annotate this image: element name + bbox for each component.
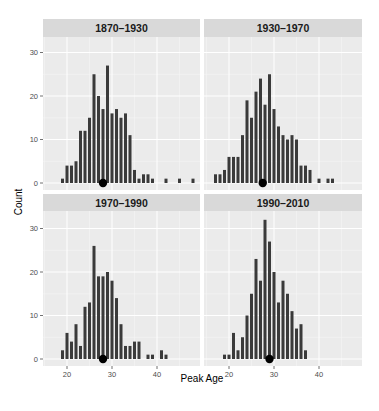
histogram-bar (304, 350, 307, 359)
histogram-bar (304, 166, 307, 183)
histogram-bar (129, 135, 132, 183)
histogram-bar (79, 346, 82, 359)
histogram-bar (97, 276, 100, 359)
histogram-bar (147, 174, 150, 183)
histogram-bar (295, 140, 298, 184)
histogram-bar (124, 346, 127, 359)
x-tick-label: 40 (153, 370, 161, 379)
histogram-bar (277, 126, 280, 183)
histogram-bar (151, 179, 154, 183)
y-tick-label: 10 (30, 135, 38, 144)
histogram-bar (282, 281, 285, 359)
histogram-bar (282, 135, 285, 183)
histogram-bar (192, 179, 195, 183)
histogram-bar (138, 342, 141, 359)
histogram-bar (300, 166, 303, 183)
histogram-bar (88, 302, 91, 359)
histogram-bar (228, 157, 231, 183)
median-point (99, 179, 107, 187)
median-point (265, 355, 273, 363)
histogram-bar (246, 100, 249, 183)
x-tick-label: 20 (63, 370, 71, 379)
histogram-bar (214, 174, 217, 183)
y-tick-label: 10 (30, 311, 38, 320)
x-tick-label: 40 (315, 370, 323, 379)
histogram-bar (133, 342, 136, 359)
histogram-bar (61, 179, 64, 183)
histogram-bar (84, 307, 87, 359)
histogram-bar (75, 324, 78, 359)
histogram-bar (106, 272, 109, 359)
histogram-bar (97, 96, 100, 183)
x-axis-title: Peak Age (181, 373, 224, 384)
facet-panel: 1990–2010 (204, 194, 362, 366)
median-point (99, 355, 107, 363)
histogram-bar (115, 109, 118, 183)
histogram-bar (318, 179, 321, 183)
y-axis-title: Count (13, 188, 24, 215)
histogram-bar (133, 170, 136, 183)
histogram-bar (88, 118, 91, 183)
histogram-bar (331, 179, 334, 183)
histogram-bar (151, 355, 154, 359)
histogram-bar (70, 166, 73, 183)
histogram-bar (178, 179, 181, 183)
histogram-bar (327, 179, 330, 183)
histogram-bar (286, 294, 289, 359)
facet-panel: 1870–1930 (43, 19, 200, 190)
y-tick-label: 20 (30, 92, 38, 101)
histogram-bar (102, 109, 105, 183)
histogram-bar (268, 74, 271, 183)
histogram-bar (255, 259, 258, 359)
histogram-bar (165, 179, 168, 183)
facet-panel: 1930–1970 (204, 19, 362, 190)
histogram-bar (300, 324, 303, 359)
y-tick-label: 30 (30, 224, 38, 233)
y-tick-label: 0 (34, 355, 38, 364)
histogram-bar (219, 174, 222, 183)
histogram-bar (232, 333, 235, 359)
histogram-bar (246, 316, 249, 360)
histogram-bar (129, 346, 132, 359)
histogram-bar (250, 118, 253, 183)
histogram-bar (142, 174, 145, 183)
histogram-bar (66, 333, 69, 359)
histogram-bar (264, 220, 267, 359)
histogram-bar (124, 113, 127, 183)
histogram-bar (291, 311, 294, 359)
histogram-bar (160, 350, 163, 359)
histogram-bar (102, 276, 105, 359)
histogram-bar (237, 350, 240, 359)
histogram-bar (241, 337, 244, 359)
histogram-bar (115, 298, 118, 359)
histogram-bar (237, 157, 240, 183)
histogram-bar (228, 355, 231, 359)
facet-strip-label: 1970–1990 (95, 197, 148, 209)
histogram-bar (309, 170, 312, 183)
facet-panel: 1970–1990 (43, 194, 200, 366)
histogram-bar (120, 118, 123, 183)
x-tick-label: 30 (270, 370, 278, 379)
histogram-bar (264, 105, 267, 183)
histogram-bar (268, 242, 271, 359)
facet-strip-label: 1870–1930 (95, 22, 148, 34)
histogram-bar (255, 92, 258, 183)
histogram-bar (273, 272, 276, 359)
facet-panels: 1870–19301930–19701970–19901990–2010 (43, 19, 362, 366)
histogram-bar (147, 355, 150, 359)
histogram-bar (111, 281, 114, 359)
histogram-bar (273, 109, 276, 183)
histogram-bar (250, 294, 253, 359)
histogram-bar (259, 79, 262, 183)
histogram-bar (277, 302, 280, 359)
histogram-bar (241, 135, 244, 183)
histogram-bar (70, 342, 73, 359)
y-axes: 01020300102030 (30, 48, 43, 364)
histogram-bar (286, 140, 289, 184)
faceted-histogram-chart: 1870–19301930–19701970–19901990–2010 010… (0, 0, 379, 411)
histogram-bar (93, 74, 96, 183)
histogram-bar (75, 161, 78, 183)
facet-strip-label: 1930–1970 (257, 22, 310, 34)
facet-strip-label: 1990–2010 (257, 197, 310, 209)
histogram-bar (223, 170, 226, 183)
